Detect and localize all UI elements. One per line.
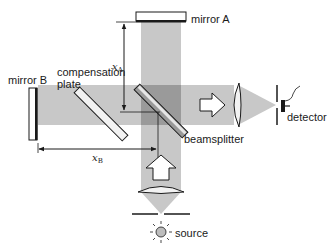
beamsplitter-label: beamsplitter [184,133,244,145]
detector-label: detector [287,111,327,123]
xb-label: xB [92,152,103,165]
mirror-a-label: mirror A [191,13,230,25]
mirror-b-label: mirror B [8,74,47,86]
interferometer-diagram: mirror A mirror B compensation plate bea… [0,0,328,250]
source-cone [141,192,181,214]
detector-icon [281,86,300,112]
detector-cone [238,85,276,125]
mirror-a [136,12,186,23]
compensation-plate-label-line2: plate [57,78,81,90]
source-label: source [175,227,208,239]
source-sun-icon [150,221,172,243]
mirror-b [29,88,38,140]
detector-lens [234,83,241,127]
